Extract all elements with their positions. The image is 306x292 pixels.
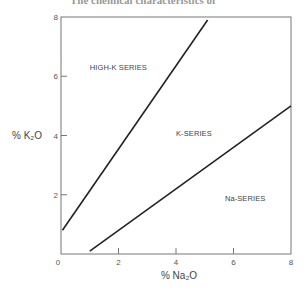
x-axis-label: % Na₂O <box>161 270 197 281</box>
region-label: K-SERIES <box>176 129 212 138</box>
boundary-line <box>62 20 207 230</box>
chart: 024682468 HIGH-K SERIESK-SERIESNa-SERIES… <box>0 0 306 292</box>
x-tick-label: 6 <box>231 258 236 267</box>
y-tick-label: 6 <box>54 72 59 81</box>
y-tick-label: 2 <box>54 191 59 200</box>
x-tick-label: 4 <box>174 258 179 267</box>
y-tick-label: 8 <box>54 13 59 22</box>
y-axis-label: % K₂O <box>12 130 42 141</box>
region-label: Na-SERIES <box>225 194 266 203</box>
region-labels: HIGH-K SERIESK-SERIESNa-SERIES <box>90 63 266 202</box>
x-tick-label: 8 <box>289 258 294 267</box>
region-label: HIGH-K SERIES <box>90 63 147 72</box>
y-tick-label: 4 <box>54 132 59 141</box>
axis-ticks: 024682468 <box>54 13 294 267</box>
x-tick-label: 0 <box>56 258 61 267</box>
x-tick-label: 2 <box>116 258 121 267</box>
